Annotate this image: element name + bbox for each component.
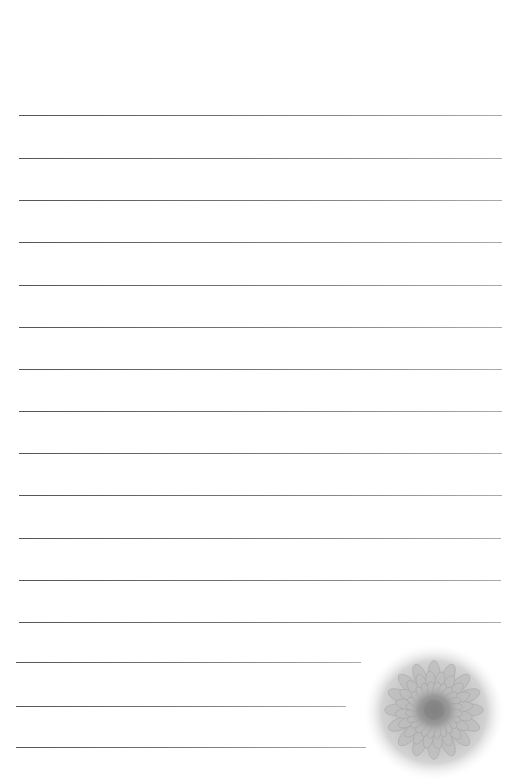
- ruled-line: [16, 662, 361, 663]
- ruled-line: [19, 200, 502, 201]
- ruled-line: [19, 242, 502, 243]
- ruled-line: [19, 158, 502, 159]
- ruled-line: [19, 622, 501, 623]
- ruled-line: [19, 580, 501, 581]
- lined-page: [0, 0, 526, 782]
- flower-image: [362, 640, 508, 782]
- ruled-line: [19, 285, 502, 286]
- ruled-line: [16, 706, 346, 707]
- ruled-line: [19, 495, 502, 496]
- ruled-line: [19, 327, 502, 328]
- ruled-line: [19, 369, 502, 370]
- ruled-line: [16, 747, 366, 748]
- ruled-line: [19, 538, 501, 539]
- ruled-line: [19, 411, 502, 412]
- ruled-line: [19, 453, 502, 454]
- ruled-line: [19, 115, 502, 116]
